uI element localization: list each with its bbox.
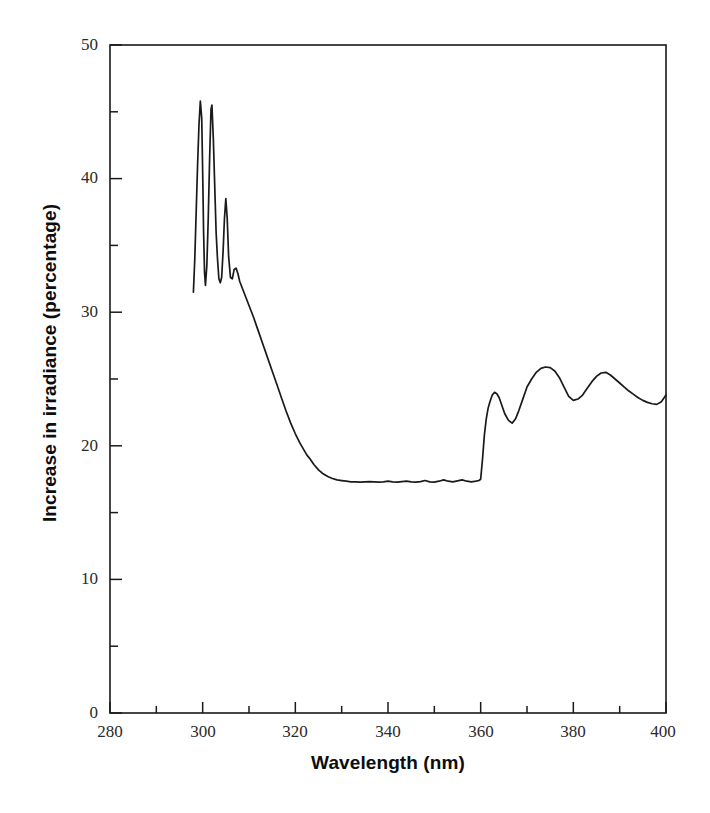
x-tick-label-280: 280 [97,722,123,742]
x-tick-label-380: 380 [560,722,586,742]
plot-area [0,0,710,813]
y-tick-label-10: 10 [60,569,98,589]
y-tick-label-0: 0 [60,703,98,723]
chart-figure: Increase in irradiance (percentage) Wave… [0,0,710,813]
y-tick-label-20: 20 [60,436,98,456]
x-axis-title: Wavelength (nm) [110,752,666,774]
y-tick-label-40: 40 [60,168,98,188]
x-tick-label-300: 300 [190,722,216,742]
y-tick-label-50: 50 [60,35,98,55]
tick-marks [110,45,666,713]
y-tick-label-30: 30 [60,302,98,322]
axis-frame [110,45,666,713]
x-tick-label-340: 340 [375,722,401,742]
x-tick-label-360: 360 [468,722,494,742]
y-axis-title: Increase in irradiance (percentage) [39,103,61,623]
data-curve [193,101,666,482]
x-tick-label-320: 320 [282,722,308,742]
x-tick-label-400: 400 [650,722,676,742]
